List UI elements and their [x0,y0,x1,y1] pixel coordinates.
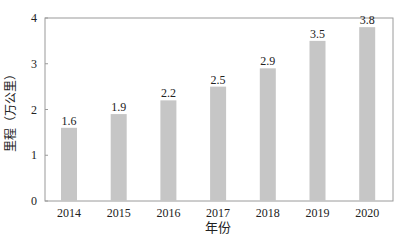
bar-2019 [310,41,326,201]
bar-2015 [111,114,127,201]
y-tick-label: 2 [31,103,37,117]
y-tick-label: 3 [31,57,37,71]
x-tick-label: 2018 [256,206,280,220]
y-tick-label: 4 [31,11,37,25]
bar-chart: 01234 1.61.92.22.52.93.53.8 201420152016… [0,0,404,244]
bar-2020 [359,27,375,201]
bars: 1.61.92.22.52.93.53.8 [61,13,375,201]
y-axis-label: 里程（万公里） [3,68,18,152]
bar-2016 [160,100,176,201]
bar-value-label: 3.8 [360,13,375,27]
bar-value-label: 1.6 [62,114,77,128]
bar-value-label: 2.5 [211,73,226,87]
x-tick-label: 2017 [206,206,230,220]
bar-2017 [210,87,226,201]
x-tick-label: 2015 [107,206,131,220]
x-tick-label: 2014 [57,206,81,220]
x-tick-label: 2019 [306,206,330,220]
bar-2014 [61,128,77,201]
x-tick-label: 2020 [355,206,379,220]
x-tick-label: 2016 [156,206,180,220]
y-tick-label: 0 [31,194,37,208]
bar-value-label: 2.2 [161,86,176,100]
bar-value-label: 3.5 [310,27,325,41]
bar-value-label: 1.9 [111,100,126,114]
x-axis-label: 年份 [205,220,231,235]
bar-value-label: 2.9 [260,54,275,68]
bar-2018 [260,68,276,201]
x-axis-ticks: 2014201520162017201820192020 [57,206,379,220]
y-tick-label: 1 [31,148,37,162]
